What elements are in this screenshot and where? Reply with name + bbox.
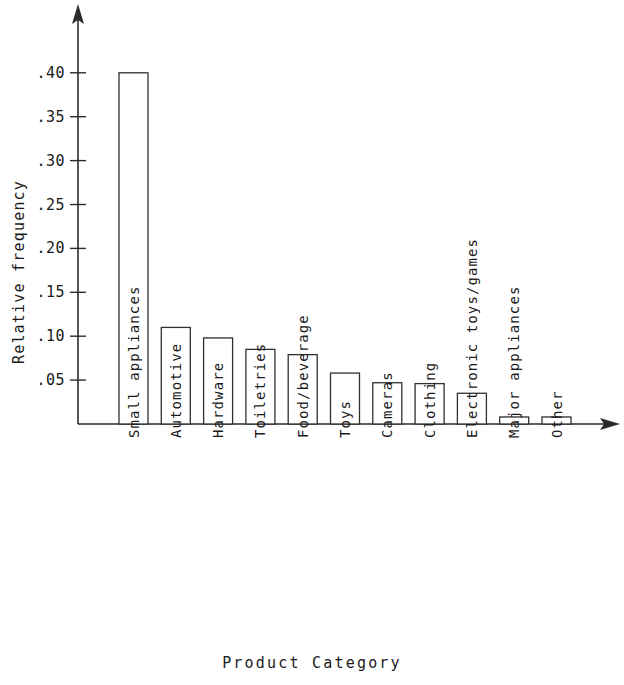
y-axis-tick-label: .30 [36,152,65,170]
x-axis-category-label: Clothing [422,362,438,438]
x-axis-category-label: Small appliances [126,286,142,438]
x-axis-title: Product Category [222,654,402,672]
chart-canvas: .05.10.15.20.25.30.35.40 Small appliance… [0,0,624,685]
x-axis-category-label: Major appliances [506,286,522,438]
y-axis-tick-label: .40 [36,64,65,82]
x-axis-category-label: Other [549,390,565,438]
y-axis [72,4,84,424]
x-axis-category-label: Hardware [210,362,226,438]
y-axis-tick-label: .35 [36,108,65,126]
x-axis-category-label: Automotive [168,343,184,438]
x-axis-category-label: Toiletries [252,343,268,438]
y-axis-tick-label: .05 [36,371,65,389]
bar-series [119,73,571,424]
x-axis-category-label: Electronic toys/games [464,238,480,438]
y-axis-tick-label: .10 [36,327,65,345]
y-axis-tick-label: .15 [36,283,65,301]
x-axis-category-label: Cameras [379,371,395,438]
relative-frequency-bar-chart: .05.10.15.20.25.30.35.40 Small appliance… [0,0,624,685]
y-axis-tick-label: .20 [36,239,65,257]
y-axis-title: Relative frequency [10,180,28,364]
y-axis-tick-label: .25 [36,196,65,214]
x-axis-category-label: Food/beverage [295,314,311,438]
x-axis-category-labels: Small appliancesAutomotiveHardwareToilet… [126,238,565,438]
x-axis-category-label: Toys [337,400,353,438]
